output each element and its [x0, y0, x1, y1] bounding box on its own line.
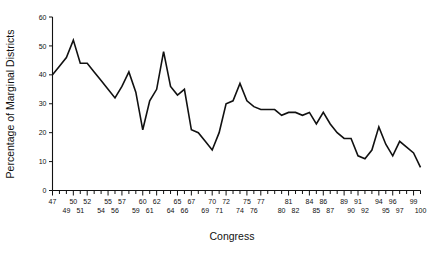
x-axis-tick-labels: 4750525557606265677072757781848689919496…	[49, 198, 427, 214]
x-axis-title: Congress	[210, 230, 255, 242]
x-tick-label: 77	[257, 198, 265, 205]
x-tick-label: 54	[97, 207, 105, 214]
y-axis-title: Percentage of Marginal Districts	[4, 30, 16, 179]
y-tick-label: 20	[39, 129, 47, 136]
y-tick-label: 40	[39, 71, 47, 78]
x-tick-label: 100	[415, 207, 427, 214]
line-chart: Percentage of Marginal Districts Congres…	[0, 0, 434, 258]
x-tick-label: 76	[250, 207, 258, 214]
x-tick-label: 57	[118, 198, 126, 205]
x-tick-label: 51	[76, 207, 84, 214]
x-tick-label: 70	[208, 198, 216, 205]
x-tick-label: 82	[292, 207, 300, 214]
x-tick-label: 64	[167, 207, 175, 214]
x-tick-label: 60	[139, 198, 147, 205]
x-tick-label: 80	[278, 207, 286, 214]
x-tick-label: 50	[69, 198, 77, 205]
x-tick-label: 61	[146, 207, 154, 214]
x-tick-label: 97	[396, 207, 404, 214]
x-tick-label: 75	[243, 198, 251, 205]
x-tick-label: 66	[181, 207, 189, 214]
x-tick-label: 69	[201, 207, 209, 214]
x-tick-label: 62	[153, 198, 161, 205]
y-tick-label: 50	[39, 43, 47, 50]
x-tick-label: 90	[347, 207, 355, 214]
x-tick-label: 56	[111, 207, 119, 214]
x-tick-label: 49	[62, 207, 70, 214]
x-tick-label: 86	[319, 198, 327, 205]
x-axis-ticks	[53, 191, 421, 196]
y-tick-label: 30	[39, 100, 47, 107]
x-tick-label: 89	[340, 198, 348, 205]
x-tick-label: 52	[83, 198, 91, 205]
x-tick-label: 85	[312, 207, 320, 214]
x-tick-label: 55	[104, 198, 112, 205]
y-tick-label: 0	[43, 187, 47, 194]
chart-figure: Percentage of Marginal Districts Congres…	[0, 0, 434, 258]
y-tick-label: 60	[39, 14, 47, 21]
x-tick-label: 72	[222, 198, 230, 205]
x-tick-label: 91	[354, 198, 362, 205]
x-tick-label: 92	[361, 207, 369, 214]
x-tick-label: 65	[174, 198, 182, 205]
y-axis-ticks: 0102030405060	[39, 14, 53, 195]
x-tick-label: 67	[187, 198, 195, 205]
x-tick-label: 59	[132, 207, 140, 214]
x-tick-label: 94	[375, 198, 383, 205]
x-tick-label: 71	[215, 207, 223, 214]
x-tick-label: 47	[49, 198, 57, 205]
x-tick-label: 81	[285, 198, 293, 205]
x-tick-label: 74	[236, 207, 244, 214]
x-tick-label: 87	[326, 207, 334, 214]
x-tick-label: 99	[410, 198, 418, 205]
x-tick-label: 96	[389, 198, 397, 205]
x-tick-label: 95	[382, 207, 390, 214]
data-series-line	[53, 40, 421, 167]
y-tick-label: 10	[39, 158, 47, 165]
x-tick-label: 84	[306, 198, 314, 205]
